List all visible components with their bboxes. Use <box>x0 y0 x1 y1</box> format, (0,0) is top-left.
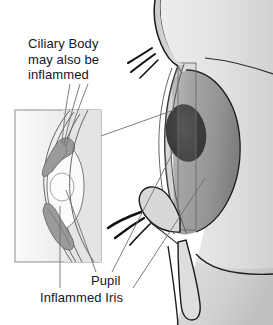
label-ciliary-body: Ciliary Body may also be inflammed <box>28 36 99 83</box>
upper-eyelash-2 <box>131 54 155 72</box>
lower-eyelash-3 <box>130 224 150 245</box>
eye-inflammation-illustration: Ciliary Body may also be inflammed Pupil… <box>0 0 273 325</box>
inset-cross-section <box>15 110 101 262</box>
label-pupil: Pupil <box>91 273 120 289</box>
leader-inset-to-eye <box>101 110 174 136</box>
label-inflamed-iris: Inflammed Iris <box>40 290 123 306</box>
upper-eyelash-1 <box>128 48 152 63</box>
